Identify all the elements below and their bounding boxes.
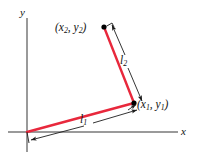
axes-group <box>8 18 178 152</box>
point2-open: (x <box>55 21 64 33</box>
diagram-svg <box>0 0 198 161</box>
link-2-segment <box>104 27 134 103</box>
length-label-l2: l2 <box>120 55 127 68</box>
tip-point-marker <box>101 24 106 29</box>
length-label-l1: l1 <box>80 114 87 127</box>
x-axis-label: x <box>181 126 186 137</box>
point2-close: ) <box>83 21 87 33</box>
point1-open: (x <box>137 98 146 110</box>
l1-subscript: 1 <box>83 118 87 127</box>
figure-canvas: y x (x2, y2) (x1, y1) l1 l2 <box>0 0 198 161</box>
point-label-x1y1: (x1, y1) <box>137 99 168 112</box>
point1-close: ) <box>165 98 169 110</box>
point2-mid: , y <box>68 21 79 33</box>
point-label-x2y2: (x2, y2) <box>55 22 86 35</box>
point2-leader-line <box>107 23 113 26</box>
y-axis-label: y <box>20 7 25 18</box>
point1-mid: , y <box>150 98 161 110</box>
l2-subscript: 2 <box>123 59 127 68</box>
